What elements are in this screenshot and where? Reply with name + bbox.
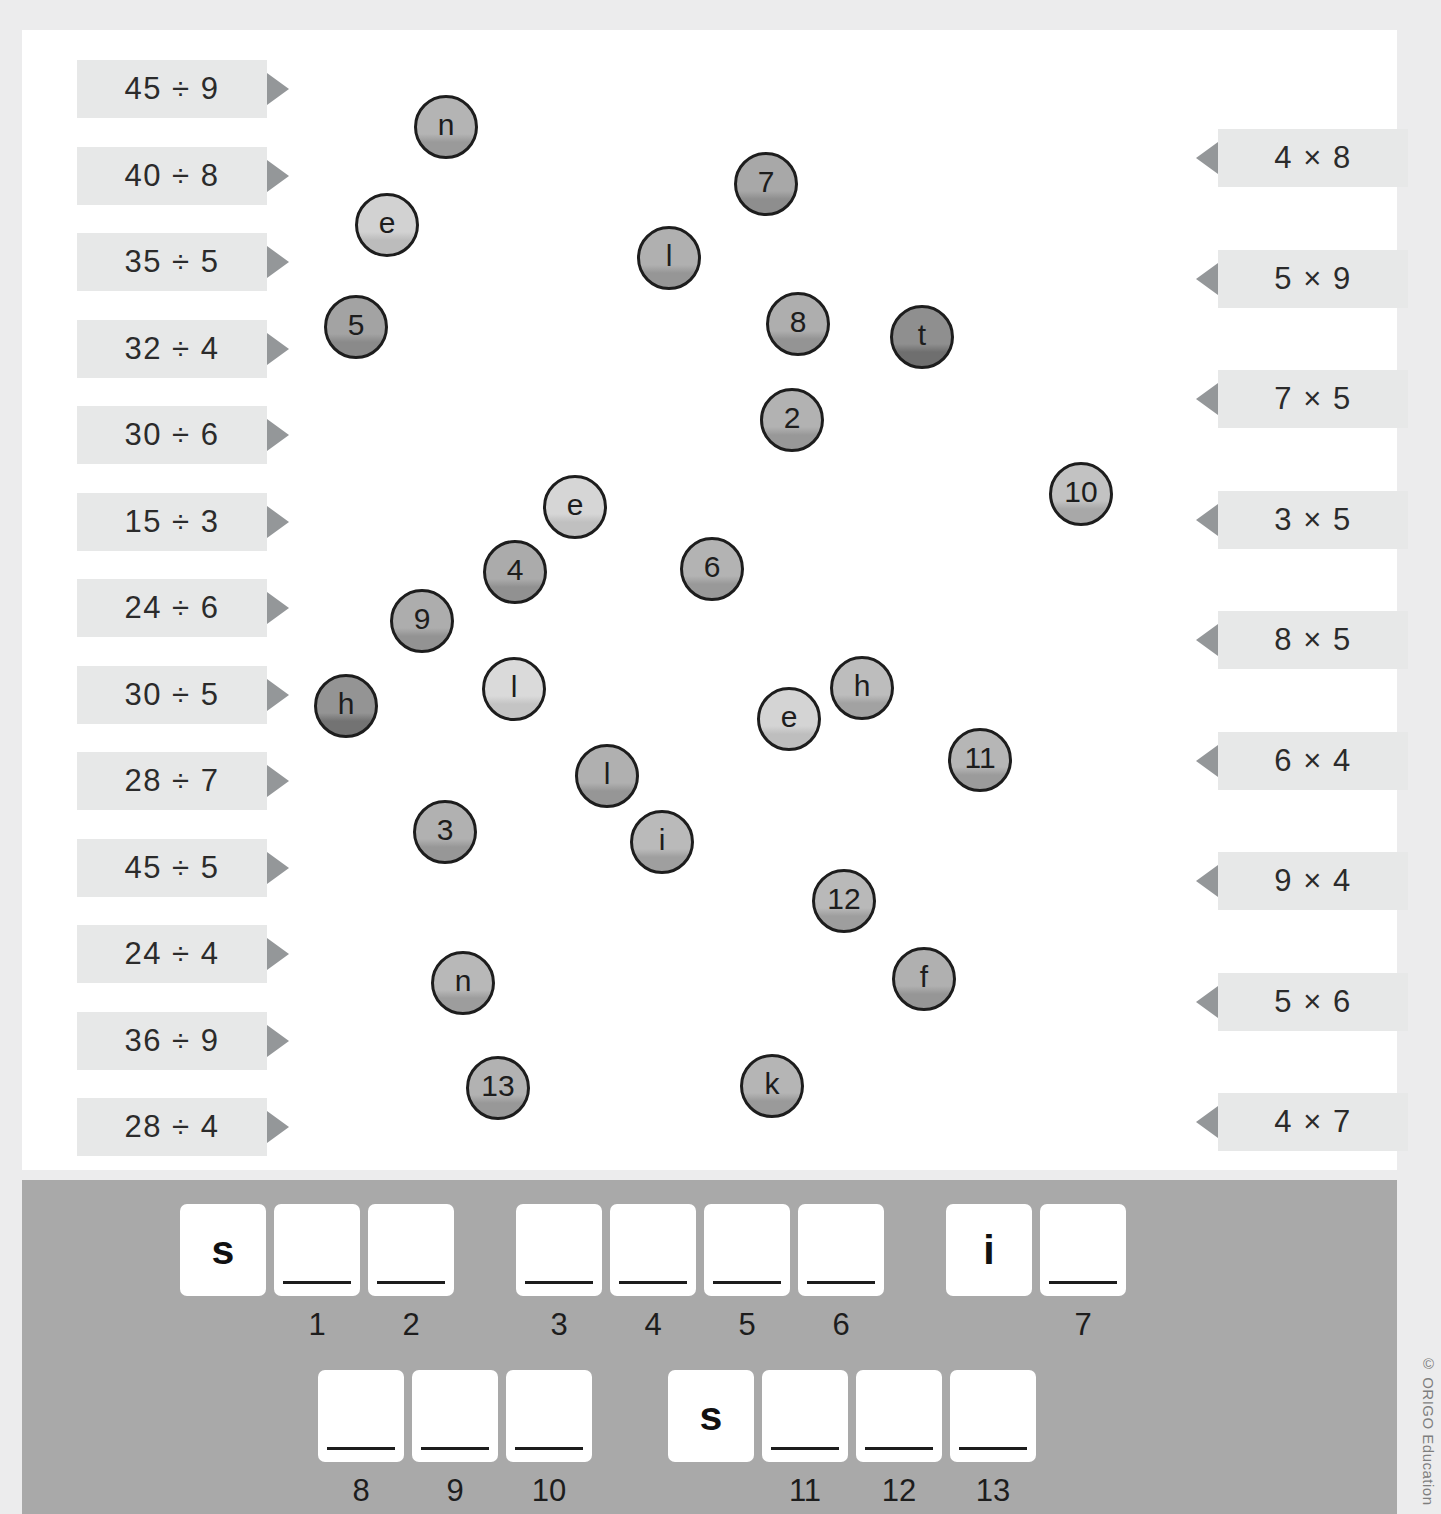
counter-disc[interactable]: h — [830, 656, 894, 720]
answer-cell-number: 4 — [644, 1307, 661, 1343]
answer-box-blank[interactable] — [368, 1204, 454, 1296]
division-fact-text: 45 ÷ 9 — [125, 71, 220, 107]
counter-disc[interactable]: e — [543, 475, 607, 539]
counter-disc-label: i — [659, 825, 666, 855]
answer-box-blank[interactable] — [1040, 1204, 1126, 1296]
counter-disc[interactable]: l — [575, 744, 639, 808]
answer-box-blank[interactable] — [318, 1370, 404, 1462]
answer-box-blank[interactable] — [412, 1370, 498, 1462]
arrow-left-icon — [1196, 624, 1218, 656]
answer-box-blank[interactable] — [274, 1204, 360, 1296]
counter-disc[interactable]: h — [314, 674, 378, 738]
answer-box-blank[interactable] — [856, 1370, 942, 1462]
puzzle-canvas: 45 ÷ 940 ÷ 835 ÷ 532 ÷ 430 ÷ 615 ÷ 324 ÷… — [22, 30, 1397, 1170]
multiplication-fact-text: 8 × 5 — [1274, 622, 1351, 658]
division-fact-chip[interactable]: 45 ÷ 9 — [77, 60, 267, 118]
counter-disc[interactable]: 2 — [760, 388, 824, 452]
answer-box-blank[interactable] — [762, 1370, 848, 1462]
division-fact-text: 32 ÷ 4 — [125, 331, 220, 367]
counter-disc[interactable]: f — [892, 947, 956, 1011]
answer-box-filled[interactable]: i — [946, 1204, 1032, 1296]
counter-disc[interactable]: 10 — [1049, 462, 1113, 526]
answer-cell: 8 — [318, 1370, 404, 1509]
arrow-left-icon — [1196, 263, 1218, 295]
division-fact-chip[interactable]: 32 ÷ 4 — [77, 320, 267, 378]
answer-box-blank[interactable] — [610, 1204, 696, 1296]
counter-disc[interactable]: l — [482, 657, 546, 721]
answer-cell-number: 6 — [832, 1307, 849, 1343]
answer-panel: s123456i78910s111213 — [22, 1180, 1397, 1514]
division-fact-chip[interactable]: 40 ÷ 8 — [77, 147, 267, 205]
arrow-right-icon — [267, 679, 289, 711]
answer-box-blank[interactable] — [516, 1204, 602, 1296]
division-fact-chip[interactable]: 45 ÷ 5 — [77, 839, 267, 897]
division-fact-chip[interactable]: 30 ÷ 5 — [77, 666, 267, 724]
answer-writing-line — [327, 1447, 395, 1450]
counter-disc[interactable]: 5 — [324, 295, 388, 359]
counter-disc[interactable]: 13 — [466, 1056, 530, 1120]
counter-disc[interactable]: 4 — [483, 540, 547, 604]
answer-cell: s — [668, 1370, 754, 1509]
multiplication-fact-chip[interactable]: 4 × 8 — [1218, 129, 1408, 187]
counter-disc[interactable]: 8 — [766, 292, 830, 356]
arrow-right-icon — [267, 1025, 289, 1057]
division-fact-chip[interactable]: 30 ÷ 6 — [77, 406, 267, 464]
division-fact-text: 40 ÷ 8 — [125, 158, 220, 194]
counter-disc[interactable]: 9 — [390, 589, 454, 653]
multiplication-fact-chip[interactable]: 8 × 5 — [1218, 611, 1408, 669]
counter-disc[interactable]: n — [414, 95, 478, 159]
counter-disc[interactable]: 12 — [812, 869, 876, 933]
counter-disc-label: 12 — [827, 884, 860, 914]
counter-disc[interactable]: 3 — [413, 800, 477, 864]
division-fact-chip[interactable]: 28 ÷ 7 — [77, 752, 267, 810]
answer-box-blank[interactable] — [798, 1204, 884, 1296]
counter-disc-label: 9 — [414, 604, 431, 634]
division-fact-chip[interactable]: 36 ÷ 9 — [77, 1012, 267, 1070]
counter-disc[interactable]: l — [637, 226, 701, 290]
answer-cell-number: 12 — [882, 1473, 916, 1509]
answer-box-filled[interactable]: s — [180, 1204, 266, 1296]
multiplication-fact-chip[interactable]: 5 × 9 — [1218, 250, 1408, 308]
answer-box-filled[interactable]: s — [668, 1370, 754, 1462]
division-fact-chip[interactable]: 15 ÷ 3 — [77, 493, 267, 551]
multiplication-fact-chip[interactable]: 4 × 7 — [1218, 1093, 1408, 1151]
multiplication-fact-text: 9 × 4 — [1274, 863, 1351, 899]
answer-box-blank[interactable] — [950, 1370, 1036, 1462]
multiplication-fact-text: 4 × 8 — [1274, 140, 1351, 176]
counter-disc[interactable]: t — [890, 305, 954, 369]
counter-disc-label: 5 — [348, 310, 365, 340]
multiplication-fact-chip[interactable]: 5 × 6 — [1218, 973, 1408, 1031]
counter-disc[interactable]: k — [740, 1054, 804, 1118]
answer-row-2: 8910s111213 — [318, 1370, 1044, 1509]
counter-disc[interactable]: e — [757, 687, 821, 751]
multiplication-fact-chip[interactable]: 7 × 5 — [1218, 370, 1408, 428]
division-fact-chip[interactable]: 24 ÷ 4 — [77, 925, 267, 983]
division-fact-chip[interactable]: 24 ÷ 6 — [77, 579, 267, 637]
answer-box-blank[interactable] — [704, 1204, 790, 1296]
multiplication-fact-chip[interactable]: 3 × 5 — [1218, 491, 1408, 549]
counter-disc[interactable]: 11 — [948, 728, 1012, 792]
counter-disc-label: e — [379, 208, 396, 238]
counter-disc[interactable]: 7 — [734, 152, 798, 216]
answer-box-blank[interactable] — [506, 1370, 592, 1462]
multiplication-fact-chip[interactable]: 6 × 4 — [1218, 732, 1408, 790]
division-fact-chip[interactable]: 35 ÷ 5 — [77, 233, 267, 291]
division-fact-chip[interactable]: 28 ÷ 4 — [77, 1098, 267, 1156]
multiplication-fact-text: 5 × 9 — [1274, 261, 1351, 297]
arrow-right-icon — [267, 938, 289, 970]
answer-cell-number: 5 — [738, 1307, 755, 1343]
answer-letter: s — [700, 1393, 723, 1440]
multiplication-fact-text: 6 × 4 — [1274, 743, 1351, 779]
arrow-left-icon — [1196, 986, 1218, 1018]
multiplication-fact-chip[interactable]: 9 × 4 — [1218, 852, 1408, 910]
division-fact-text: 45 ÷ 5 — [125, 850, 220, 886]
answer-cell: 4 — [610, 1204, 696, 1343]
arrow-left-icon — [1196, 504, 1218, 536]
answer-word-group: i7 — [946, 1204, 1134, 1343]
counter-disc[interactable]: n — [431, 951, 495, 1015]
counter-disc[interactable]: e — [355, 193, 419, 257]
answer-cell: i — [946, 1204, 1032, 1343]
worksheet-page: 45 ÷ 940 ÷ 835 ÷ 532 ÷ 430 ÷ 615 ÷ 324 ÷… — [0, 0, 1441, 1514]
counter-disc[interactable]: i — [630, 810, 694, 874]
counter-disc[interactable]: 6 — [680, 537, 744, 601]
